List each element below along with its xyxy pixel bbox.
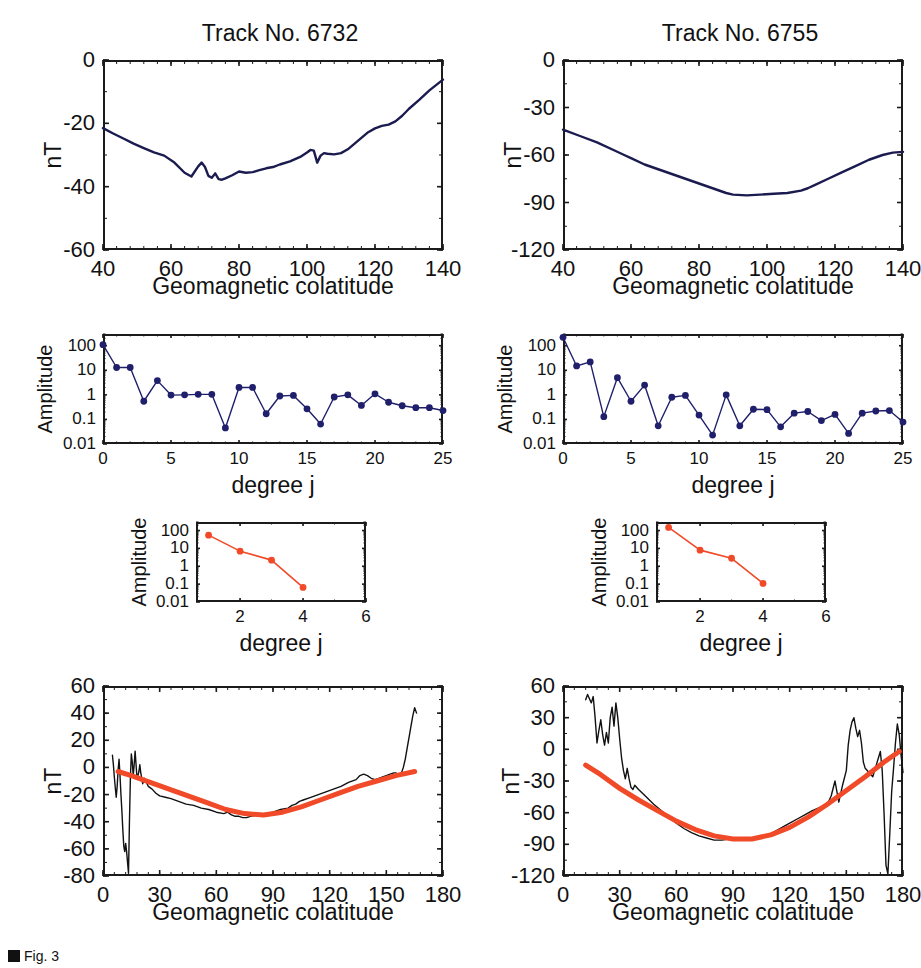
x-tick-label: 80 [687, 256, 711, 282]
y-tick-label: -60 [465, 142, 555, 168]
x-tick-label: 25 [894, 449, 913, 469]
y-tick-label: 100 [99, 521, 189, 541]
y-tick-label: -90 [465, 831, 555, 857]
x-tick-label: 15 [298, 449, 317, 469]
y-tick-label: -40 [5, 809, 95, 835]
caption-label: Fig. 3 [24, 948, 59, 964]
y-tick-label: 0.01 [466, 434, 556, 454]
inset-series-6755 [656, 522, 826, 602]
x-tick-label: 100 [749, 256, 786, 282]
y-tick-label: 10 [466, 360, 556, 380]
x-tick-label: 10 [690, 449, 709, 469]
x-tick-label: 10 [230, 449, 249, 469]
panel-title-left: Track No. 6732 [100, 20, 460, 47]
y-tick-label: -60 [5, 237, 95, 263]
y-tick-label: 0.1 [6, 409, 96, 429]
y-tick-label: 10 [6, 360, 96, 380]
profile-curve-6732 [103, 60, 443, 250]
y-tick-label: -90 [465, 190, 555, 216]
y-tick-label: 0 [465, 47, 555, 73]
x-tick-label: 2 [235, 607, 244, 627]
x-tick-label: 60 [619, 256, 643, 282]
axis-label-x: degree j [699, 630, 782, 657]
x-tick-label: 25 [434, 449, 453, 469]
y-tick-label: -40 [5, 174, 95, 200]
y-tick-label: -120 [465, 237, 555, 263]
y-tick-label: 20 [5, 727, 95, 753]
x-tick-label: 100 [289, 256, 326, 282]
x-tick-label: 0 [558, 449, 567, 469]
inset-series-6732 [196, 522, 366, 602]
x-tick-label: 0 [97, 882, 109, 908]
x-tick-label: 60 [159, 256, 183, 282]
figure-caption: Fig. 3 [8, 948, 59, 964]
y-tick-label: 0 [465, 736, 555, 762]
x-tick-label: 4 [298, 607, 307, 627]
y-tick-label: 10 [559, 538, 649, 558]
panel-title-right: Track No. 6755 [560, 20, 920, 47]
y-tick-label: 0.01 [559, 592, 649, 612]
y-tick-label: 100 [559, 521, 649, 541]
x-tick-label: 6 [821, 607, 830, 627]
y-tick-label: -20 [5, 782, 95, 808]
fullprofile-curves-6755 [563, 686, 903, 876]
y-tick-label: 0 [5, 754, 95, 780]
y-tick-label: 0.1 [99, 574, 189, 594]
x-tick-label: 120 [357, 256, 394, 282]
y-tick-label: 60 [465, 673, 555, 699]
y-tick-label: 0.01 [6, 434, 96, 454]
x-tick-label: 0 [557, 882, 569, 908]
profile-curve-6755 [563, 60, 903, 250]
axis-label-y: nT [40, 142, 67, 169]
fullprofile-curves-6732 [103, 686, 443, 876]
y-tick-label: 1 [6, 385, 96, 405]
x-tick-label: 15 [758, 449, 777, 469]
x-tick-label: 80 [227, 256, 251, 282]
y-tick-label: 0.01 [99, 592, 189, 612]
x-tick-label: 0 [98, 449, 107, 469]
x-tick-label: 30 [607, 882, 631, 908]
caption-square-icon [8, 950, 20, 962]
y-tick-label: 30 [465, 705, 555, 731]
axis-label-x: degree j [239, 630, 322, 657]
y-tick-label: 0.1 [466, 409, 556, 429]
x-tick-label: 120 [311, 882, 348, 908]
x-tick-label: 6 [361, 607, 370, 627]
y-tick-label: -60 [465, 800, 555, 826]
x-tick-label: 4 [758, 607, 767, 627]
y-tick-label: 100 [6, 336, 96, 356]
x-tick-label: 120 [771, 882, 808, 908]
y-tick-label: -60 [5, 836, 95, 862]
y-tick-label: 40 [5, 700, 95, 726]
y-tick-label: -80 [5, 863, 95, 889]
y-tick-label: -20 [5, 110, 95, 136]
x-tick-label: 5 [166, 449, 175, 469]
x-tick-label: 140 [885, 256, 921, 282]
x-tick-label: 30 [147, 882, 171, 908]
x-tick-label: 90 [261, 882, 285, 908]
spectrum-series-6755 [563, 334, 903, 444]
y-tick-label: -30 [465, 768, 555, 794]
x-tick-label: 140 [425, 256, 462, 282]
x-tick-label: 150 [368, 882, 405, 908]
x-tick-label: 20 [826, 449, 845, 469]
axis-label-x: degree j [231, 472, 314, 499]
x-tick-label: 2 [695, 607, 704, 627]
y-tick-label: 10 [99, 538, 189, 558]
x-tick-label: 180 [425, 882, 462, 908]
y-tick-label: 0 [5, 47, 95, 73]
x-tick-label: 90 [721, 882, 745, 908]
x-tick-label: 180 [885, 882, 921, 908]
y-tick-label: 100 [466, 336, 556, 356]
y-tick-label: 0.1 [559, 574, 649, 594]
x-tick-label: 60 [664, 882, 688, 908]
x-tick-label: 20 [366, 449, 385, 469]
x-tick-label: 5 [626, 449, 635, 469]
y-tick-label: -30 [465, 95, 555, 121]
y-tick-label: 1 [99, 556, 189, 576]
y-tick-label: 1 [559, 556, 649, 576]
x-tick-label: 120 [817, 256, 854, 282]
axis-label-x: degree j [691, 472, 774, 499]
y-tick-label: -120 [465, 863, 555, 889]
y-tick-label: 1 [466, 385, 556, 405]
